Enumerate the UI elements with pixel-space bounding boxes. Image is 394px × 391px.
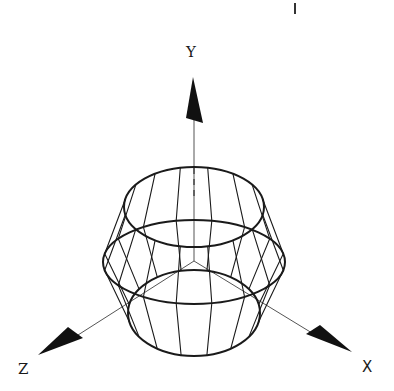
z-axis xyxy=(38,261,194,355)
z-axis-arrow-icon xyxy=(38,327,83,355)
x-axis-label: X xyxy=(362,360,372,375)
x-axis-arrow-icon xyxy=(306,325,352,352)
meridian-line xyxy=(259,215,284,322)
meridian-line xyxy=(105,215,130,322)
y-axis-label: Y xyxy=(186,45,196,60)
wireframe-diagram xyxy=(0,0,394,391)
meridian-line xyxy=(231,240,245,348)
meridian-line xyxy=(207,168,212,271)
meridian-line xyxy=(143,240,157,348)
meridian-line xyxy=(176,168,181,271)
y-axis-arrow-icon xyxy=(186,77,203,123)
z-axis-label: Z xyxy=(18,362,28,377)
